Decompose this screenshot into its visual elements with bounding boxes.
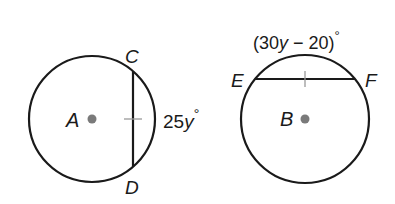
arc-ef-deg: ° (335, 28, 340, 43)
arc-ef-rest: − 20) (288, 33, 335, 53)
label-b: B (280, 108, 293, 130)
circle-a-figure: A C D 25y° (29, 46, 199, 198)
label-d: D (125, 177, 139, 198)
diagram-canvas: A C D 25y° B E F (30y − 20)° (0, 0, 395, 204)
label-e: E (231, 70, 244, 91)
arc-cd-deg: ° (194, 106, 200, 122)
circle-b-figure: B E F (30y − 20)° (231, 28, 378, 183)
label-a: A (65, 109, 79, 131)
center-a-dot (88, 115, 97, 124)
arc-measure-ef: (30y − 20)° (253, 28, 340, 53)
center-b-dot (301, 115, 310, 124)
label-f: F (365, 70, 378, 91)
arc-measure-cd: 25y° (163, 106, 199, 132)
arc-cd-coef: 25 (163, 111, 184, 132)
label-c: C (125, 46, 139, 67)
arc-ef-open: (30 (253, 33, 279, 53)
congruent-chords-diagram: A C D 25y° B E F (30y − 20)° (0, 0, 395, 204)
